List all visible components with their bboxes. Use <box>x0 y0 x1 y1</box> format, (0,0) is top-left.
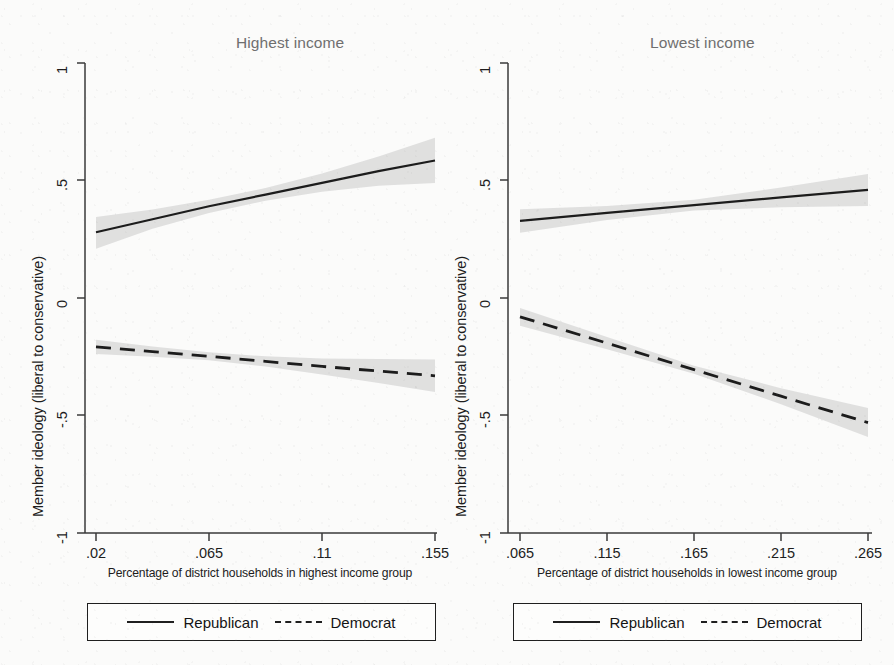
figure-canvas: Highest income Member ideology (liberal … <box>0 0 894 665</box>
legend-left: Republican Democrat <box>87 603 436 641</box>
legend-entry-republican-left[interactable]: Republican <box>127 614 258 631</box>
legend-entry-republican-right[interactable]: Republican <box>553 614 684 631</box>
y-tick-label-right-neg1: -1 <box>477 520 493 544</box>
y-tick-label-right-05: .5 <box>477 171 493 191</box>
y-tick-label-right-neg05: -.5 <box>477 402 493 428</box>
x-axis-label-left: Percentage of district households in hig… <box>60 566 460 580</box>
legend-entry-democrat-left[interactable]: Democrat <box>275 614 396 631</box>
y-tick-label-right-0: 0 <box>477 288 493 308</box>
x-tick-label-left-2: .11 <box>294 545 350 561</box>
x-tick-label-left-0: .02 <box>68 545 124 561</box>
x-tick-label-right-4: .265 <box>837 545 894 561</box>
x-tick-label-left-3: .155 <box>404 545 466 561</box>
ci-band-right-republican <box>520 174 868 233</box>
x-axis-label-right: Percentage of district households in low… <box>487 566 887 580</box>
legend-label-republican-right: Republican <box>609 614 684 631</box>
legend-label-democrat-left: Democrat <box>331 614 396 631</box>
y-axis-label-right: Member ideology (liberal to conservative… <box>453 256 469 517</box>
legend-label-democrat-right: Democrat <box>757 614 822 631</box>
ci-band-left-democrat <box>96 340 435 392</box>
ci-band-right-democrat <box>520 308 868 437</box>
legend-entry-democrat-right[interactable]: Democrat <box>701 614 822 631</box>
legend-swatch-solid-line-left <box>127 621 174 623</box>
legend-label-republican-left: Republican <box>183 614 258 631</box>
x-tick-label-right-3: .215 <box>750 545 812 561</box>
ci-band-left-republican <box>96 138 435 249</box>
x-tick-label-right-0: .065 <box>489 545 551 561</box>
legend-swatch-dashed-line-right <box>701 621 748 623</box>
panel-title-lowest-income: Lowest income <box>650 34 755 52</box>
legend-swatch-solid-line-right <box>553 621 600 623</box>
legend-swatch-dashed-line-left <box>275 621 322 623</box>
x-tick-label-right-1: .115 <box>576 545 638 561</box>
x-tick-label-right-2: .165 <box>663 545 725 561</box>
legend-right: Republican Democrat <box>513 603 862 641</box>
y-tick-label-right-1: 1 <box>477 54 493 74</box>
x-tick-label-left-1: .065 <box>178 545 240 561</box>
